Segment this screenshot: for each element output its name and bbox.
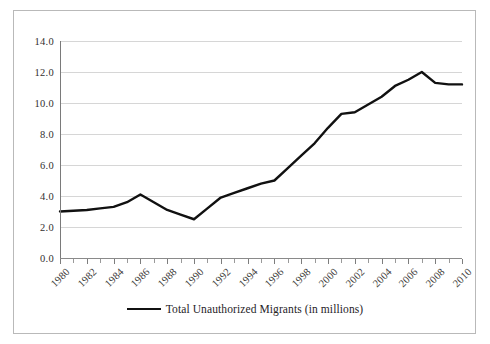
x-tick-2000 (328, 259, 329, 264)
x-tick-1993 (234, 259, 235, 263)
x-tick-2002 (355, 259, 356, 264)
x-tick-1980 (60, 259, 61, 264)
x-tick-1981 (73, 259, 74, 263)
x-tick-1983 (100, 259, 101, 263)
plot-area (60, 41, 462, 258)
x-tick-1988 (167, 259, 168, 264)
x-tick-2008 (435, 259, 436, 264)
x-tick-2010 (462, 259, 463, 264)
x-tick-2004 (382, 259, 383, 264)
x-tick-1991 (207, 259, 208, 263)
y-tick-label-12.0: 12.0 (34, 67, 54, 78)
y-tick-label-4.0: 4.0 (40, 191, 54, 202)
x-tick-1986 (140, 259, 141, 264)
line-series-svg (60, 41, 462, 258)
x-tick-2005 (395, 259, 396, 263)
x-tick-2006 (408, 259, 409, 264)
x-tick-1994 (248, 259, 249, 264)
y-tick-label-8.0: 8.0 (40, 129, 54, 140)
x-tick-1982 (87, 259, 88, 264)
legend-line-swatch (127, 308, 161, 310)
x-tick-1995 (261, 259, 262, 263)
x-tick-1989 (181, 259, 182, 263)
y-tick-label-10.0: 10.0 (34, 98, 54, 109)
chart-legend: Total Unauthorized Migrants (in millions… (0, 303, 490, 315)
y-axis-line (60, 41, 61, 259)
y-tick-label-6.0: 6.0 (40, 160, 54, 171)
x-tick-2009 (449, 259, 450, 263)
x-tick-1997 (288, 259, 289, 263)
x-tick-1996 (274, 259, 275, 264)
x-tick-1999 (315, 259, 316, 263)
series-line-total-unauthorized-migrants (60, 72, 462, 219)
x-tick-2007 (422, 259, 423, 263)
x-tick-1998 (301, 259, 302, 264)
x-tick-1990 (194, 259, 195, 264)
x-tick-1992 (221, 259, 222, 264)
x-tick-1984 (114, 259, 115, 264)
chart-figure: 0.02.04.06.08.010.012.014.0 198019821984… (0, 0, 490, 344)
x-tick-2001 (341, 259, 342, 263)
y-tick-label-0.0: 0.0 (40, 253, 54, 264)
x-tick-1985 (127, 259, 128, 263)
x-tick-2003 (368, 259, 369, 263)
legend-label: Total Unauthorized Migrants (in millions… (166, 303, 363, 315)
x-tick-1987 (154, 259, 155, 263)
y-tick-label-14.0: 14.0 (34, 36, 54, 47)
y-tick-label-2.0: 2.0 (40, 222, 54, 233)
